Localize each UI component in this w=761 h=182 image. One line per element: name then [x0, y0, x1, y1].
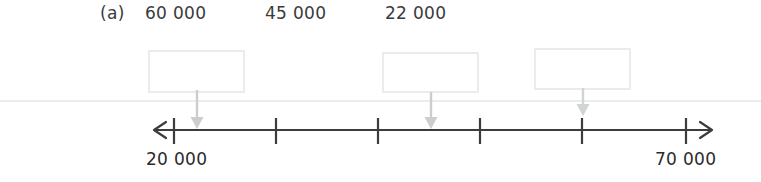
axis-label-start: 20 000	[146, 148, 207, 170]
number-line	[0, 0, 761, 182]
worksheet-diagram: (a) 60 000 45 000 22 000 20 000 70	[0, 0, 761, 182]
axis-label-end: 70 000	[655, 148, 716, 170]
